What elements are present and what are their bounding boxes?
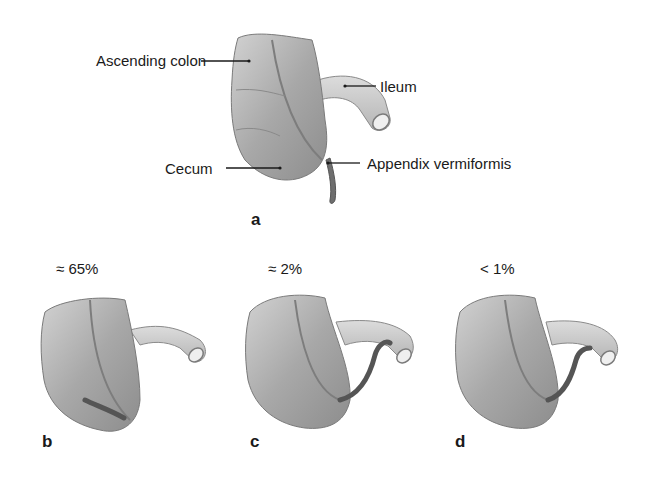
- panel-letter-b: b: [42, 432, 52, 452]
- panel-letter-c: c: [250, 432, 259, 452]
- frequency-c: ≈ 2%: [268, 260, 302, 277]
- panel-letter-a: a: [251, 210, 260, 230]
- colon-shape: [231, 34, 326, 180]
- frequency-d: < 1%: [480, 260, 515, 277]
- panel-d-illustration: [456, 295, 618, 428]
- label-cecum: Cecum: [165, 160, 213, 177]
- appendix-shape: [326, 158, 336, 203]
- label-ascending-colon: Ascending colon: [96, 52, 206, 69]
- panel-c-illustration: [246, 295, 414, 428]
- label-ileum: Ileum: [380, 78, 417, 95]
- label-appendix: Appendix vermiformis: [367, 155, 511, 172]
- anatomy-figure: [0, 0, 649, 486]
- frequency-b: ≈ 65%: [56, 260, 98, 277]
- panel-b-illustration: [41, 298, 206, 431]
- panel-a-illustration: [201, 34, 392, 203]
- panel-letter-d: d: [455, 432, 465, 452]
